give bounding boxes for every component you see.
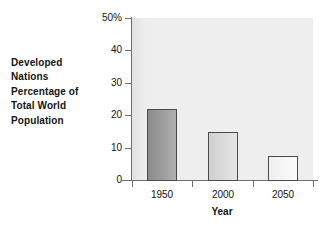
- x-axis-separator: [132, 181, 133, 187]
- y-axis-tick-label-wrap: 20: [88, 110, 122, 120]
- y-axis-tick-label: 40: [88, 45, 122, 55]
- y-axis-tick-label-wrap: 10: [88, 143, 122, 153]
- y-axis-caption-line: Developed: [11, 56, 107, 70]
- x-axis-tick-label: 2000: [198, 189, 248, 201]
- bar-1950: [147, 109, 177, 181]
- y-axis-tick-label-wrap: 50%: [88, 13, 122, 23]
- y-axis-tick: [125, 50, 132, 51]
- y-axis-tick: [125, 18, 132, 19]
- x-axis-separator: [192, 181, 193, 187]
- y-axis-tick: [125, 115, 132, 116]
- y-axis-tick-label: 20: [88, 110, 122, 120]
- x-axis-separator: [313, 181, 314, 187]
- y-axis-tick-label: 0: [88, 175, 122, 185]
- y-axis-tick: [125, 148, 132, 149]
- y-axis-tick-label-wrap: 0: [88, 175, 122, 185]
- bar-2050: [268, 156, 298, 181]
- y-axis-tick-label: 10: [88, 143, 122, 153]
- y-axis-tick-label: 30: [88, 78, 122, 88]
- x-axis-title: Year: [162, 206, 282, 217]
- x-axis-tick-label: 2050: [258, 189, 308, 201]
- x-axis-separator: [253, 181, 254, 187]
- bar-chart-figure: Developed Nations Percentage of Total Wo…: [0, 0, 331, 227]
- bar-2000: [208, 132, 238, 181]
- x-axis-tick-label: 1950: [137, 189, 187, 201]
- y-axis-tick: [125, 180, 132, 181]
- y-axis-line: [131, 17, 132, 181]
- y-axis-tick: [125, 83, 132, 84]
- y-axis-tick-label-wrap: 40: [88, 45, 122, 55]
- y-axis-tick-label: 50%: [88, 13, 122, 23]
- y-axis-tick-label-wrap: 30: [88, 78, 122, 88]
